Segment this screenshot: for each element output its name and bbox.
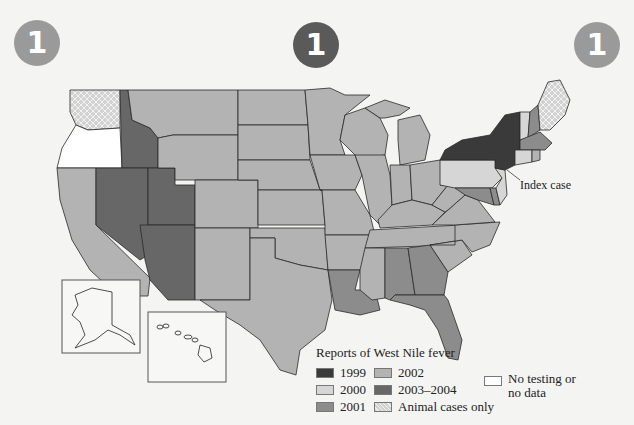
swatch-no-data (484, 376, 502, 386)
swatch-1999 (316, 368, 334, 378)
legend-item-1999: 1999 (316, 365, 366, 381)
hawaii-inset (148, 312, 226, 382)
state-or (57, 125, 122, 168)
swatch-animal-cases (374, 402, 392, 412)
state-ms (360, 248, 385, 300)
legend-item-2003-2004: 2003–2004 (374, 382, 457, 398)
index-case-label: Index case (520, 178, 571, 193)
state-pa (440, 160, 502, 188)
map-legend: Reports of West Nile fever 1999 2000 200… (316, 345, 626, 425)
state-nd (238, 90, 308, 125)
state-me (538, 80, 570, 130)
legend-item-2001: 2001 (316, 399, 366, 415)
state-ri (532, 150, 540, 162)
swatch-2001 (316, 402, 334, 412)
legend-item-animal-cases: Animal cases only (374, 399, 494, 415)
swatch-2000 (316, 385, 334, 395)
legend-item-2002: 2002 (374, 365, 424, 381)
state-ks (258, 190, 325, 225)
state-sd (238, 125, 310, 160)
state-mi (398, 115, 430, 165)
swatch-2003-2004 (374, 385, 392, 395)
state-wa (70, 90, 120, 130)
state-ct (515, 150, 532, 165)
legend-item-2000: 2000 (316, 382, 366, 398)
index-case-pointer (507, 170, 520, 180)
swatch-2002 (374, 368, 392, 378)
state-co (195, 180, 258, 228)
legend-title: Reports of West Nile fever (316, 345, 455, 361)
state-in (390, 165, 412, 205)
legend-item-no-data: No testing or no data (484, 372, 576, 400)
state-nm (195, 228, 250, 300)
